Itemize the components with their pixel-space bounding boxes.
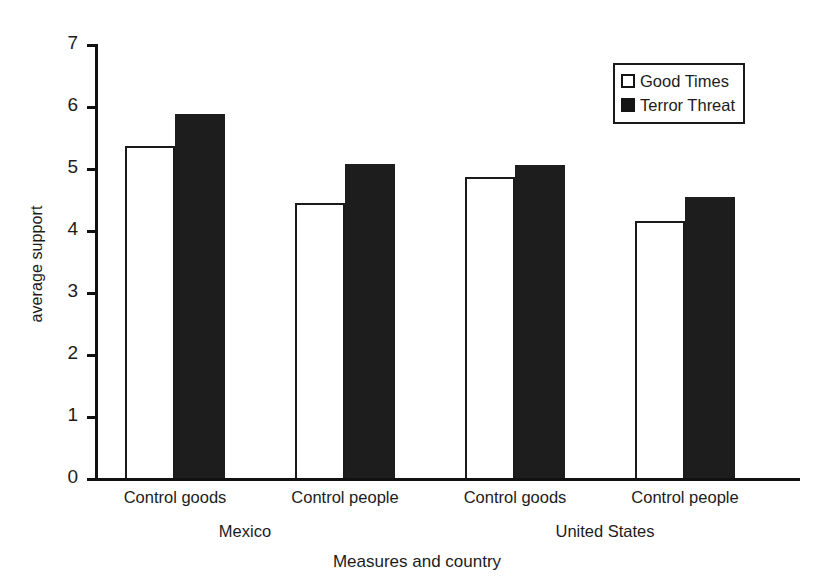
y-tick-label-0: 0	[48, 466, 78, 488]
legend-item-terror-threat: Terror Threat	[621, 93, 735, 117]
y-tick-0: 0	[87, 478, 96, 481]
x-group-label-mexico: Mexico	[165, 522, 325, 541]
y-axis-title: average support	[28, 164, 46, 364]
y-tick-1: 1	[87, 416, 96, 419]
y-tick-label-2: 2	[48, 342, 78, 364]
y-tick-label-3: 3	[48, 280, 78, 302]
open-square-icon	[621, 74, 635, 88]
filled-square-icon	[621, 98, 635, 112]
y-tick-2: 2	[87, 354, 96, 357]
bar-terror-threat-us-control-people	[685, 197, 735, 478]
y-tick-label-6: 6	[48, 94, 78, 116]
legend-label-good-times: Good Times	[640, 72, 729, 91]
x-category-label-4: Control people	[605, 488, 765, 507]
y-tick-label-1: 1	[48, 404, 78, 426]
bar-good-times-mexico-control-people	[295, 203, 345, 478]
legend-item-good-times: Good Times	[621, 69, 735, 93]
x-axis-line	[95, 478, 800, 481]
bar-chart: average support 7 6 5 4 3 2 1 0	[0, 0, 834, 587]
y-tick-3: 3	[87, 292, 96, 295]
bar-terror-threat-mexico-control-goods	[175, 114, 225, 478]
y-tick-label-4: 4	[48, 218, 78, 240]
x-category-label-1: Control goods	[95, 488, 255, 507]
bar-terror-threat-us-control-goods	[515, 165, 565, 478]
y-tick-label-7: 7	[48, 32, 78, 54]
legend-label-terror-threat: Terror Threat	[640, 96, 735, 115]
y-tick-label-5: 5	[48, 156, 78, 178]
legend: Good Times Terror Threat	[613, 63, 745, 124]
bar-terror-threat-mexico-control-people	[345, 164, 395, 478]
x-category-label-2: Control people	[265, 488, 425, 507]
bar-good-times-mexico-control-goods	[125, 146, 175, 478]
y-tick-4: 4	[87, 230, 96, 233]
x-axis-title: Measures and country	[0, 552, 834, 572]
y-tick-5: 5	[87, 168, 96, 171]
x-category-label-3: Control goods	[435, 488, 595, 507]
x-group-label-united-states: United States	[515, 522, 695, 541]
bar-good-times-us-control-people	[635, 221, 685, 478]
y-tick-6: 6	[87, 106, 96, 109]
bar-good-times-us-control-goods	[465, 177, 515, 478]
y-tick-7: 7	[87, 44, 96, 47]
y-axis-line	[95, 44, 98, 479]
